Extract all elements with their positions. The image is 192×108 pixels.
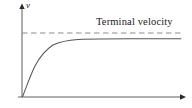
- terminal-velocity-annotation: Terminal velocity: [96, 17, 173, 28]
- y-axis-label: v: [26, 1, 30, 10]
- velocity-curve: [23, 39, 182, 97]
- y-axis-arrow-icon: [19, 3, 24, 9]
- terminal-velocity-figure: Terminal velocity v: [0, 0, 192, 108]
- x-axis-arrow-icon: [180, 94, 186, 100]
